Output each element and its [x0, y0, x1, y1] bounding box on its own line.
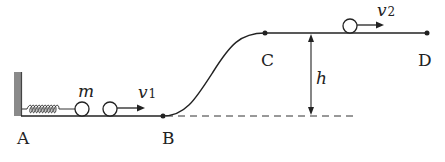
point-label-c: C: [261, 50, 274, 70]
ball-moving: [103, 102, 117, 116]
point-d: [425, 31, 430, 36]
velocity-label-v2: v2: [377, 0, 395, 20]
mass-label: m: [78, 81, 94, 101]
wall: [14, 72, 22, 116]
height-label: h: [316, 68, 327, 88]
velocity-label-v1: v1: [138, 82, 156, 102]
point-label-a: A: [16, 128, 30, 148]
ramp-curve: [163, 33, 265, 116]
ball-upper: [343, 19, 357, 33]
arrowhead-icon: [137, 105, 145, 112]
spring: [22, 105, 75, 113]
point-label-d: D: [418, 50, 432, 70]
arrowhead-icon: [376, 22, 384, 29]
physics-diagram: m v1 v2 h A B C D: [0, 0, 445, 162]
arrowhead-down-icon: [308, 107, 314, 115]
arrowhead-up-icon: [308, 34, 314, 42]
ball-m: [75, 102, 89, 116]
point-label-b: B: [162, 128, 175, 148]
